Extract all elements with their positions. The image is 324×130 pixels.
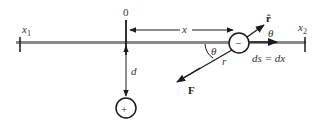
force-label: F bbox=[188, 84, 195, 96]
ds-label: ds = dx bbox=[252, 52, 285, 64]
charge-diagram: x1 0 x d + − r F θ r̂ θ ds = dx x2 bbox=[0, 0, 324, 130]
positive-charge-sign: + bbox=[121, 103, 127, 115]
x2-label: x2 bbox=[297, 21, 307, 36]
r-label: r bbox=[222, 55, 227, 67]
d-label: d bbox=[131, 65, 137, 77]
x1-label: x1 bbox=[21, 23, 31, 38]
x-label: x bbox=[181, 23, 187, 35]
theta-label-1: θ bbox=[211, 45, 217, 57]
origin-label: 0 bbox=[123, 6, 129, 18]
r-hat-vector bbox=[247, 25, 264, 37]
r-hat-label: r̂ bbox=[266, 12, 271, 24]
theta-label-2: θ bbox=[268, 27, 274, 39]
negative-charge-sign: − bbox=[235, 37, 241, 49]
force-vector bbox=[177, 68, 200, 82]
